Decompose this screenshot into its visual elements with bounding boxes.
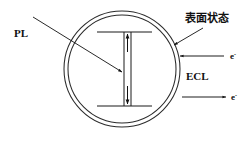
pl-pointer-arrow — [33, 17, 122, 72]
surface-state-pointer-arrow — [174, 28, 203, 45]
figure-container: PL 表面状态 ECL e- e- — [0, 0, 244, 142]
ecl-label: ECL — [186, 70, 209, 82]
inner-core-circle — [68, 15, 176, 123]
electron-out-charge: - — [235, 92, 237, 98]
core-shell-schematic: PL 表面状态 ECL e- e- — [0, 0, 244, 142]
pl-label: PL — [14, 27, 28, 39]
electron-in-charge: - — [234, 51, 236, 57]
surface-state-label: 表面状态 — [184, 11, 229, 25]
outer-shell-circle — [64, 11, 180, 127]
electron-in-label: e- — [230, 51, 236, 62]
electron-out-label: e- — [231, 92, 237, 103]
